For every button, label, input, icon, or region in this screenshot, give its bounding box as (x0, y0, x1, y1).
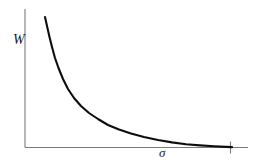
x-axis-label: σ (159, 146, 165, 159)
chart-figure: W σ (0, 0, 266, 165)
chart-plot-area (0, 0, 266, 165)
chart-background (0, 0, 266, 165)
y-axis-label: W (13, 33, 25, 47)
